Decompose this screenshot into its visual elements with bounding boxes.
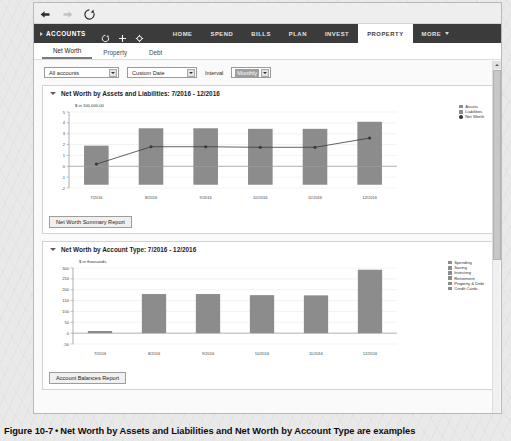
svg-text:200: 200 bbox=[62, 287, 69, 292]
svg-text:$ in 100,000.00: $ in 100,000.00 bbox=[75, 103, 105, 108]
legend-label: Credit Cards bbox=[454, 286, 478, 291]
nav-tab-spend[interactable]: SPEND bbox=[202, 24, 243, 43]
panel2-plot-wrap: $ in thousands300250200150100500-507/201… bbox=[43, 256, 494, 366]
chevron-down-icon[interactable] bbox=[187, 69, 195, 77]
svg-text:11/2016: 11/2016 bbox=[308, 195, 323, 200]
refresh-icon[interactable] bbox=[101, 29, 110, 38]
subtab-property[interactable]: Property bbox=[92, 49, 138, 59]
date-range-value: Custom Date bbox=[132, 70, 165, 76]
chevron-down-icon[interactable] bbox=[109, 69, 117, 77]
svg-text:0: 0 bbox=[67, 331, 70, 336]
appbar-nav-tabs: HOME SPEND BILLS PLAN INVEST PROPERTY MO… bbox=[164, 24, 458, 43]
chart2-legend: Spending Saving Investing Retiremen bbox=[448, 260, 484, 291]
nav-tab-label: INVEST bbox=[325, 31, 349, 37]
nav-tab-label: HOME bbox=[173, 31, 193, 37]
svg-text:300: 300 bbox=[62, 266, 69, 271]
accounts-label: ACCOUNTS bbox=[46, 30, 86, 37]
chevron-right-icon bbox=[40, 32, 43, 36]
svg-text:1: 1 bbox=[63, 153, 66, 158]
account-balances-report-button[interactable]: Account Balances Report bbox=[49, 372, 126, 384]
figure-number: Figure 10-7 bbox=[4, 426, 53, 436]
figure-caption: Figure 10-7•Net Worth by Assets and Liab… bbox=[4, 426, 507, 436]
accounts-filter-select[interactable]: All accounts bbox=[44, 67, 119, 78]
nav-tab-property[interactable]: PROPERTY bbox=[358, 24, 412, 43]
svg-text:9/2016: 9/2016 bbox=[200, 195, 213, 200]
interval-select[interactable]: Monthly bbox=[231, 67, 271, 78]
panel2-button-label: Account Balances Report bbox=[56, 375, 119, 381]
legend-swatch-icon bbox=[448, 266, 452, 270]
svg-text:11/2016: 11/2016 bbox=[309, 351, 324, 356]
svg-text:10/2016: 10/2016 bbox=[253, 195, 268, 200]
chevron-down-icon[interactable] bbox=[261, 69, 269, 77]
scroll-up-arrow-icon[interactable] bbox=[493, 61, 501, 69]
svg-text:5: 5 bbox=[63, 110, 66, 115]
svg-text:$ in thousands: $ in thousands bbox=[79, 259, 106, 264]
appbar-tools bbox=[95, 24, 150, 43]
svg-text:0: 0 bbox=[63, 164, 66, 169]
app-navigation-bar: ACCOUNTS bbox=[34, 24, 501, 43]
legend-swatch-icon bbox=[459, 115, 463, 119]
svg-text:12/2016: 12/2016 bbox=[363, 351, 378, 356]
panel1-title: Net Worth by Assets and Liabilities: 7/2… bbox=[61, 90, 220, 97]
chart1-legend: Assets Liabilities Net Worth bbox=[459, 104, 484, 120]
chevron-down-icon bbox=[445, 32, 449, 35]
subtab-label: Debt bbox=[149, 49, 162, 56]
legend-swatch-icon bbox=[459, 105, 463, 109]
svg-text:100: 100 bbox=[62, 309, 69, 314]
back-arrow-icon[interactable] bbox=[39, 7, 52, 20]
legend-item-net-worth: Net Worth bbox=[459, 114, 484, 119]
svg-text:4: 4 bbox=[63, 120, 66, 125]
subtab-debt[interactable]: Debt bbox=[138, 49, 173, 59]
chart-net-worth-account-type: $ in thousands300250200150100500-507/201… bbox=[47, 256, 477, 360]
content-scrollbar[interactable] bbox=[492, 61, 500, 414]
app-window: ACCOUNTS bbox=[33, 2, 502, 414]
chevron-down-icon[interactable] bbox=[50, 92, 56, 95]
settings-icon[interactable] bbox=[135, 29, 144, 38]
panel2-header[interactable]: Net Worth by Account Type: 7/2016 - 12/2… bbox=[43, 242, 494, 256]
svg-text:-1: -1 bbox=[61, 175, 65, 180]
panel1-button-label: Net Worth Summary Report bbox=[56, 219, 125, 225]
date-range-select[interactable]: Custom Date bbox=[127, 67, 197, 78]
svg-text:2: 2 bbox=[63, 142, 66, 147]
add-icon[interactable] bbox=[118, 29, 127, 38]
legend-swatch-icon bbox=[448, 271, 452, 275]
legend-label: Net Worth bbox=[465, 114, 484, 119]
net-worth-summary-report-button[interactable]: Net Worth Summary Report bbox=[49, 216, 132, 228]
legend-swatch-icon bbox=[448, 276, 452, 280]
svg-text:10/2016: 10/2016 bbox=[255, 351, 270, 356]
reload-icon[interactable] bbox=[83, 7, 96, 20]
svg-text:3: 3 bbox=[63, 131, 66, 136]
subtab-net-worth[interactable]: Net Worth bbox=[42, 47, 92, 59]
svg-text:8/2016: 8/2016 bbox=[145, 195, 158, 200]
nav-tab-home[interactable]: HOME bbox=[164, 24, 202, 43]
forward-arrow-icon[interactable] bbox=[61, 7, 74, 20]
svg-text:7/2016: 7/2016 bbox=[94, 351, 107, 356]
nav-tab-invest[interactable]: INVEST bbox=[316, 24, 358, 43]
panel2-title: Net Worth by Account Type: 7/2016 - 12/2… bbox=[61, 246, 196, 253]
legend-item-credit-cards: Credit Cards bbox=[448, 286, 484, 291]
nav-tab-label: PLAN bbox=[289, 31, 307, 37]
chart-net-worth-assets-liabilities: $ in 100,000.00543210-1-27/20168/20169/2… bbox=[47, 100, 477, 204]
svg-text:9/2016: 9/2016 bbox=[202, 351, 215, 356]
subtab-label: Property bbox=[103, 49, 127, 56]
nav-tab-bills[interactable]: BILLS bbox=[242, 24, 280, 43]
nav-tab-more[interactable]: MORE bbox=[413, 24, 459, 43]
panel1-header[interactable]: Net Worth by Assets and Liabilities: 7/2… bbox=[43, 86, 494, 100]
svg-text:50: 50 bbox=[65, 320, 70, 325]
svg-text:250: 250 bbox=[62, 276, 69, 281]
svg-text:150: 150 bbox=[62, 298, 69, 303]
panel-net-worth-assets-liabilities: Net Worth by Assets and Liabilities: 7/2… bbox=[42, 85, 495, 234]
nav-tab-label: MORE bbox=[422, 31, 442, 37]
filter-bar: All accounts Custom Date Interval Monthl… bbox=[42, 67, 495, 78]
legend-swatch-icon bbox=[459, 110, 463, 114]
svg-text:12/2016: 12/2016 bbox=[362, 195, 377, 200]
accounts-menu-button[interactable]: ACCOUNTS bbox=[34, 24, 95, 43]
nav-tab-plan[interactable]: PLAN bbox=[280, 24, 316, 43]
scrollbar-thumb[interactable] bbox=[493, 70, 501, 260]
interval-label: Interval bbox=[205, 70, 223, 76]
svg-text:8/2016: 8/2016 bbox=[148, 351, 161, 356]
svg-text:7/2016: 7/2016 bbox=[90, 195, 103, 200]
chevron-down-icon[interactable] bbox=[50, 248, 56, 251]
legend-swatch-icon bbox=[448, 261, 452, 265]
legend-swatch-icon bbox=[448, 287, 452, 291]
